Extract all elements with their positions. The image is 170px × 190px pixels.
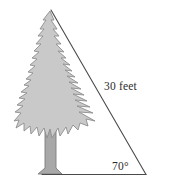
diagram-canvas xyxy=(0,0,170,190)
hypotenuse-length-label: 30 feet xyxy=(104,81,137,93)
tree-trunk-shape xyxy=(38,126,62,174)
tree-foliage-shape xyxy=(14,11,95,138)
angle-measure-label: 70° xyxy=(112,161,129,173)
figure-container: 30 feet 70° xyxy=(0,0,170,190)
